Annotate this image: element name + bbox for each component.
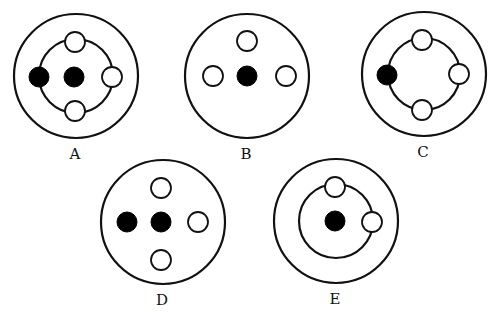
diagram-label: B xyxy=(240,145,251,163)
filled-circle xyxy=(64,67,84,87)
open-circle xyxy=(65,101,85,121)
open-circle xyxy=(362,212,382,232)
filled-circle xyxy=(237,66,257,86)
open-circle xyxy=(412,100,432,120)
atom-diagrams-canvas: ABCDE xyxy=(0,0,492,316)
diagram-label: E xyxy=(330,290,341,308)
filled-circle xyxy=(151,212,171,232)
open-circle xyxy=(151,178,171,198)
open-circle xyxy=(276,66,296,86)
open-circle xyxy=(237,31,257,51)
open-circle xyxy=(102,67,122,87)
diagram-a: A xyxy=(14,14,138,163)
diagram-b: B xyxy=(185,14,309,163)
filled-circle xyxy=(325,211,345,231)
open-circle xyxy=(449,64,469,84)
open-circle xyxy=(325,177,345,197)
open-circle xyxy=(188,212,208,232)
filled-circle xyxy=(29,67,49,87)
open-circle xyxy=(151,250,171,270)
filled-circle xyxy=(117,212,137,232)
diagram-label: D xyxy=(156,291,168,309)
open-circle xyxy=(412,30,432,50)
diagram-e: E xyxy=(274,159,398,308)
filled-circle xyxy=(377,65,397,85)
open-circle xyxy=(65,32,85,52)
diagram-c: C xyxy=(362,12,486,161)
open-circle xyxy=(203,66,223,86)
diagram-label: A xyxy=(69,145,81,163)
diagram-label: C xyxy=(417,143,428,161)
diagram-d: D xyxy=(101,160,225,309)
